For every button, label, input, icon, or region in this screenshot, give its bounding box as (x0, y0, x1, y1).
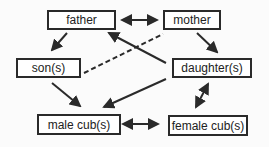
edge-daughter-female-cub (196, 84, 208, 107)
node-label: mother (173, 13, 210, 27)
edge-son-male-cub (52, 83, 80, 106)
node-father: father (47, 10, 116, 30)
node-label: male cub(s) (48, 118, 111, 132)
node-label: daughter(s) (181, 61, 242, 75)
node-mother: mother (163, 10, 221, 30)
node-female-cub: female cub(s) (168, 115, 248, 136)
edge-daughter-male-cub (104, 79, 166, 107)
edge-father-son (52, 33, 67, 50)
node-daughter: daughter(s) (172, 58, 252, 78)
node-label: father (66, 13, 97, 27)
node-label: son(s) (32, 61, 65, 75)
node-son: son(s) (16, 58, 81, 78)
node-male-cub: male cub(s) (37, 114, 121, 135)
node-label: female cub(s) (172, 119, 245, 133)
edge-mother-daughter (197, 33, 217, 52)
